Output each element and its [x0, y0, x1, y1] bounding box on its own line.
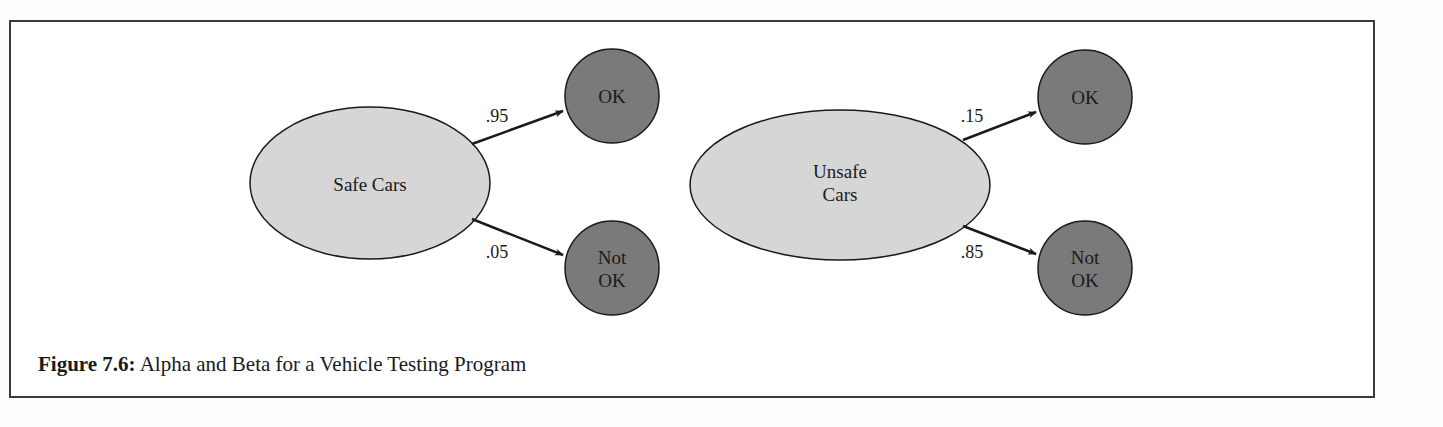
- unsafe-cars-tree: Unsafe Cars .15 .85 OK Not OK: [690, 50, 1132, 315]
- unsafe-cars-label-line2: Cars: [823, 184, 858, 205]
- figure-title: Alpha and Beta for a Vehicle Testing Pro…: [136, 352, 527, 376]
- outcome-notok-node: [565, 221, 659, 315]
- prob-unsafe-ok: .15: [961, 106, 984, 126]
- prob-safe-ok: .95: [486, 106, 509, 126]
- outcome-notok-node: [1038, 221, 1132, 315]
- outcome-notok-label-line2: OK: [598, 270, 626, 291]
- unsafe-cars-label-line1: Unsafe: [813, 161, 867, 182]
- outcome-notok-label-line1: Not: [598, 247, 627, 268]
- prob-unsafe-notok: .85: [961, 242, 984, 262]
- outcome-notok-label-line1: Not: [1071, 247, 1100, 268]
- safe-cars-tree: Safe Cars .95 .05 OK Not OK: [250, 49, 659, 315]
- outcome-ok-label: OK: [598, 86, 626, 107]
- prob-safe-notok: .05: [486, 242, 509, 262]
- outcome-notok-label-line2: OK: [1071, 270, 1099, 291]
- figure-number: Figure 7.6:: [38, 352, 136, 376]
- figure-caption: Figure 7.6: Alpha and Beta for a Vehicle…: [38, 352, 526, 377]
- safe-cars-label: Safe Cars: [333, 174, 406, 195]
- outcome-ok-label: OK: [1071, 87, 1099, 108]
